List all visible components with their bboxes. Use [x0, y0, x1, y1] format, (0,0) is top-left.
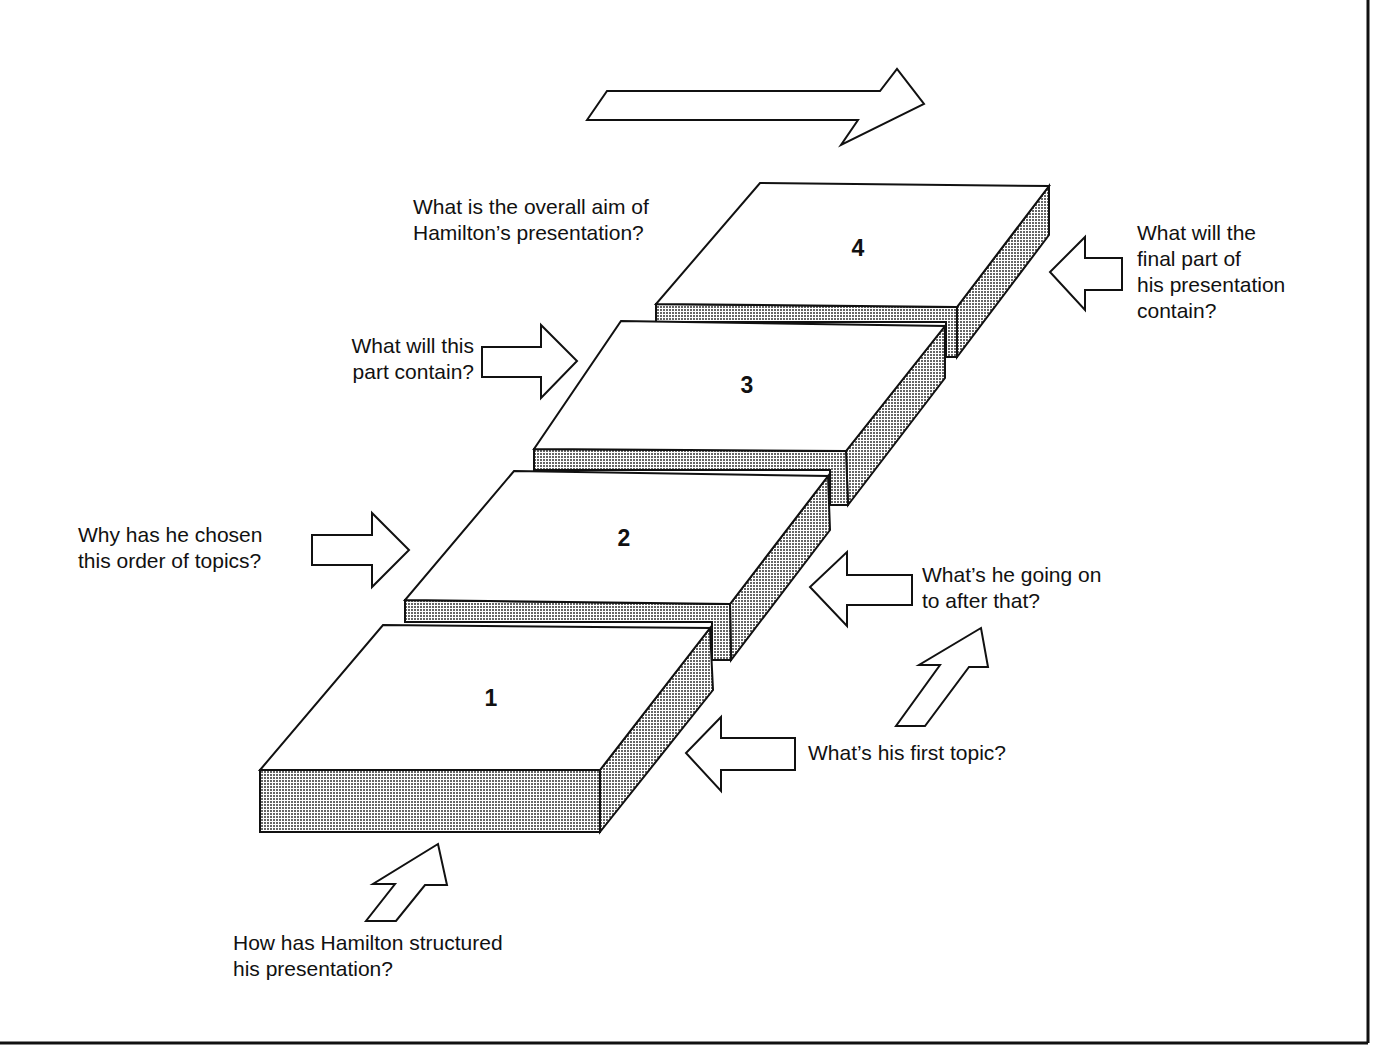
block-1-number: 1	[485, 685, 498, 712]
block-3-number: 3	[741, 372, 754, 399]
block-2-number: 2	[618, 525, 631, 552]
question-order-topics: Why has he chosen this order of topics?	[78, 522, 262, 574]
question-first-topic: What’s his first topic?	[808, 740, 1006, 766]
question-going-on: What’s he going on to after that?	[922, 562, 1101, 614]
block-4-number: 4	[852, 235, 865, 262]
arrow-right-order-topics-icon	[312, 513, 409, 587]
direction-arrow-right-icon	[587, 69, 924, 145]
diagram-canvas: 4 3 2 1 What is the overall aim of Hamil…	[0, 0, 1391, 1062]
block-1	[260, 625, 713, 832]
question-final-part: What will the final part of his presenta…	[1137, 220, 1285, 324]
question-part-contain: What will this part contain?	[296, 333, 474, 385]
question-overall-aim: What is the overall aim of Hamilton’s pr…	[413, 194, 649, 246]
arrow-left-final-part-icon	[1050, 237, 1122, 310]
arrow-left-going-on-icon	[810, 552, 912, 626]
arrow-diagonal-structured-icon	[366, 844, 447, 921]
arrow-diagonal-going-on-icon	[896, 628, 988, 726]
arrow-right-part-contain-icon	[482, 325, 577, 398]
question-structured: How has Hamilton structured his presenta…	[233, 930, 503, 982]
arrow-left-first-topic-icon	[686, 717, 795, 791]
